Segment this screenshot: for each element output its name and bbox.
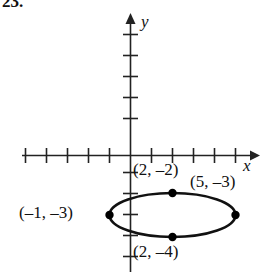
point-label-right: (5, –3) xyxy=(190,172,235,192)
point-bottom xyxy=(168,233,176,241)
coordinate-plane xyxy=(0,0,261,272)
point-top xyxy=(168,189,176,197)
point-right xyxy=(231,211,239,219)
point-label-left: (–1, –3) xyxy=(19,203,73,223)
y-axis-label: y xyxy=(141,12,149,32)
point-label-top: (2, –2) xyxy=(133,160,178,180)
axis-arrowheads xyxy=(126,13,261,161)
x-axis-label: x xyxy=(243,156,251,176)
point-label-bottom: (2, –4) xyxy=(133,242,178,262)
math-figure: 23. xyxy=(0,0,261,272)
x-axis-arrow-icon xyxy=(250,151,260,161)
axis-lines xyxy=(22,22,250,272)
point-left xyxy=(105,211,113,219)
y-axis-arrow-icon xyxy=(126,13,136,24)
